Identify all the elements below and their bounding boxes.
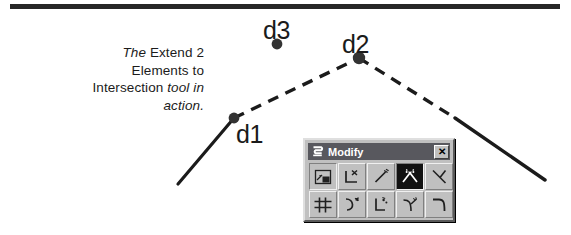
modify-arc-angle-tool[interactable]	[367, 191, 395, 218]
point-label-d1: d1	[236, 120, 263, 149]
right-solid-element	[455, 118, 545, 180]
tool-row-1	[309, 163, 453, 190]
point-label-d3: d3	[263, 16, 290, 45]
modify-arc-radius-tool[interactable]	[338, 191, 366, 218]
delete-part-of-element-tool[interactable]	[338, 163, 366, 190]
left-dashed-extension	[234, 58, 359, 118]
construct-chamfer-tool[interactable]	[309, 191, 337, 218]
close-icon[interactable]: ✕	[434, 145, 449, 159]
point-label-d2: d2	[342, 30, 369, 59]
move-element-tool[interactable]	[309, 163, 337, 190]
figure-canvas: The Extend 2 Elements to Intersection to…	[0, 0, 571, 235]
construct-circular-fillet-tool[interactable]	[425, 191, 453, 218]
modify-tool-icon	[310, 145, 325, 159]
dialog-titlebar[interactable]: Modify ✕	[308, 143, 450, 160]
right-dashed-extension	[359, 58, 455, 118]
extend-2-elements-to-intersection-tool[interactable]	[396, 163, 424, 190]
tool-button-grid	[309, 163, 453, 218]
tool-row-2	[309, 191, 453, 218]
extend-line-tool[interactable]	[367, 163, 395, 190]
extend-element-to-intersection-tool[interactable]	[425, 163, 453, 190]
trim-elements-tool[interactable]	[396, 191, 424, 218]
dialog-title: Modify	[325, 145, 434, 159]
left-solid-element	[178, 118, 234, 184]
modify-toolbar-dialog[interactable]: Modify ✕	[303, 138, 455, 222]
